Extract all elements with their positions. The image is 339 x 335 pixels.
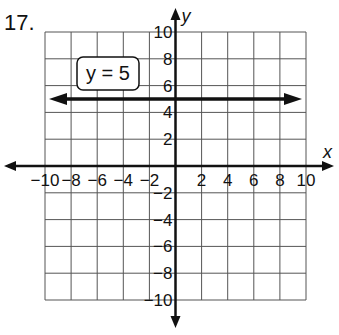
y-tick-label: −6 (153, 237, 172, 256)
y-tick-label: −10 (144, 291, 173, 310)
y-tick-label: −2 (153, 184, 172, 203)
x-tick-label: −10 (31, 171, 60, 190)
y-tick-label: 4 (163, 103, 172, 122)
coordinate-plane: xy −10−8−6−4−2246810108642−2−4−6−8−10 y … (0, 0, 339, 335)
x-axis-left-arrow-icon (4, 161, 16, 171)
y-axis-label: y (180, 6, 192, 26)
equation-label: y = 5 (77, 57, 139, 90)
x-tick-label: −8 (61, 171, 80, 190)
x-axis-right-arrow-icon (322, 161, 334, 171)
x-tick-label: −6 (88, 171, 107, 190)
line-right-arrow-icon (284, 93, 302, 105)
y-tick-label: 10 (154, 23, 173, 42)
y-tick-label: 6 (163, 77, 172, 96)
x-tick-label: 10 (297, 171, 316, 190)
y-tick-label: −4 (153, 211, 172, 230)
y-tick-label: 2 (163, 130, 172, 149)
x-tick-label: 8 (275, 171, 284, 190)
x-axis-label: x (322, 142, 333, 162)
x-tick-label: −4 (114, 171, 133, 190)
y-axis-down-arrow-icon (171, 316, 181, 328)
y-tick-label: −8 (153, 264, 172, 283)
y-axis-up-arrow-icon (171, 8, 181, 20)
x-tick-label: 6 (249, 171, 258, 190)
x-tick-label: 2 (197, 171, 206, 190)
line-left-arrow-icon (49, 93, 67, 105)
equation-label-text: y = 5 (86, 62, 130, 84)
x-tick-label: 4 (223, 171, 232, 190)
y-tick-label: 8 (163, 50, 172, 69)
